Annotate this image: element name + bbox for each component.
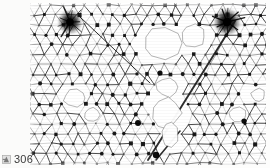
figure-caption: 306 <box>2 153 33 166</box>
page-number-label: 306 <box>14 154 33 165</box>
micrograph-panel <box>30 3 266 165</box>
cropped-marginal-mark-icon <box>2 155 11 164</box>
figure-page: 306 <box>0 0 270 168</box>
lattice-diagram <box>30 3 266 165</box>
page-margin-strip <box>0 0 30 168</box>
